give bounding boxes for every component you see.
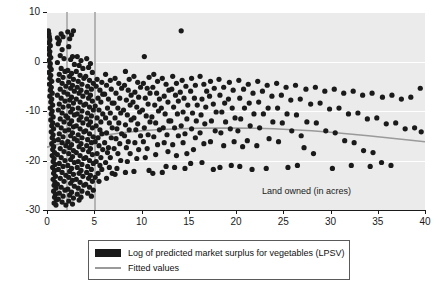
x-tick-label: 0	[32, 216, 62, 227]
x-tick	[142, 210, 143, 214]
y-tick-label: 0	[0, 56, 40, 67]
x-tick	[94, 210, 95, 214]
legend-item-points: Log of predicted market surplus for vege…	[95, 245, 343, 260]
x-tick-label: 35	[363, 216, 393, 227]
x-tick	[47, 210, 48, 214]
legend-label-points: Log of predicted market surplus for vege…	[128, 248, 345, 258]
y-tick	[43, 12, 47, 13]
x-tick	[236, 210, 237, 214]
legend-item-fit: Fitted values	[95, 260, 343, 275]
y-tick	[43, 210, 47, 211]
chart-legend: Log of predicted market surplus for vege…	[88, 240, 350, 280]
x-tick	[331, 210, 332, 214]
x-tick-label: 10	[127, 216, 157, 227]
x-tick-label: 40	[410, 216, 439, 227]
y-tick-label: -20	[0, 155, 40, 166]
scatter-points	[47, 12, 425, 210]
x-tick-label: 20	[221, 216, 251, 227]
x-axis-title: Land owned (in acres)	[262, 186, 351, 196]
y-tick-label: -10	[0, 105, 40, 116]
x-tick-label: 25	[268, 216, 298, 227]
x-tick-label: 5	[79, 216, 109, 227]
y-tick	[43, 111, 47, 112]
x-tick-label: 15	[174, 216, 204, 227]
x-tick	[378, 210, 379, 214]
legend-square-marker-icon	[95, 249, 121, 257]
y-tick-label: -30	[0, 204, 40, 215]
y-tick-label: 10	[0, 6, 40, 17]
y-tick	[43, 161, 47, 162]
x-tick	[425, 210, 426, 214]
y-tick	[43, 62, 47, 63]
legend-line-marker-icon	[95, 267, 121, 269]
x-tick	[283, 210, 284, 214]
x-tick	[189, 210, 190, 214]
legend-label-fit: Fitted values	[128, 263, 179, 273]
chart-figure: Land owned (in acres) 0510152025303540 1…	[0, 0, 439, 288]
plot-area	[47, 12, 425, 210]
x-tick-label: 30	[316, 216, 346, 227]
